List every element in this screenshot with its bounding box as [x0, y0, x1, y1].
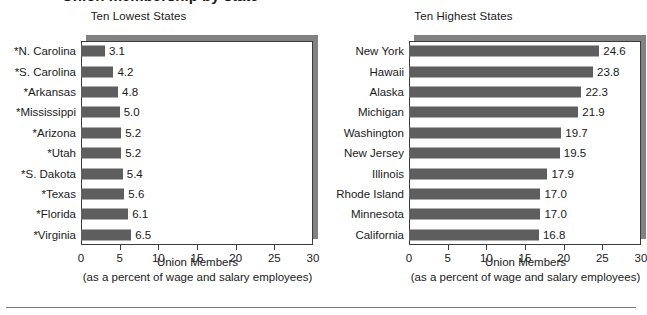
axis-tick [236, 245, 237, 250]
chart-panel-lowest: Ten Lowest States *N. Carolina3.1*S. Car… [0, 6, 321, 301]
bar-category-label: *Mississippi [8, 106, 81, 118]
bar-track: 19.5 [409, 143, 642, 163]
bar-track: 5.2 [81, 123, 314, 143]
bar-category-label: Alaska [336, 86, 409, 98]
bar-track: 5.0 [81, 102, 314, 122]
bar-row: Washington19.7 [336, 123, 642, 143]
bar-track: 4.2 [81, 61, 314, 81]
bar-category-label: *S. Carolina [8, 66, 81, 78]
bar-row: Hawaii23.8 [336, 61, 642, 81]
bar [409, 86, 581, 97]
bar-value-label: 4.8 [122, 86, 138, 98]
bar-value-label: 3.1 [109, 45, 125, 57]
bar-track: 4.8 [81, 82, 314, 102]
bar-value-label: 4.2 [117, 66, 133, 78]
bar-track: 24.6 [409, 41, 642, 61]
bar-track: 16.8 [409, 225, 642, 245]
bar-value-label: 17.0 [544, 208, 566, 220]
bar-row: *S. Dakota5.4 [8, 163, 314, 183]
bar-track: 17.9 [409, 163, 642, 183]
bar-row: *Texas5.6 [8, 184, 314, 204]
bar-value-label: 23.8 [597, 66, 619, 78]
bar-value-label: 6.1 [132, 208, 148, 220]
axis-tick [158, 245, 159, 250]
bar-row: *Arizona5.2 [8, 123, 314, 143]
bar [81, 107, 120, 118]
axis-tick [448, 245, 449, 250]
bar [409, 168, 547, 179]
bar [81, 188, 124, 199]
bar-track: 17.0 [409, 184, 642, 204]
x-axis-subtitle-lowest: (as a percent of wage and salary employe… [8, 271, 314, 283]
bar-category-label: Michigan [336, 106, 409, 118]
chart-title-lowest: Ten Lowest States [0, 10, 299, 22]
bar-value-label: 5.6 [128, 188, 144, 200]
bar-category-label: Hawaii [336, 66, 409, 78]
footer-divider [6, 307, 636, 308]
bar-track: 21.9 [409, 102, 642, 122]
bar [81, 168, 123, 179]
bar-track: 3.1 [81, 41, 314, 61]
bar-category-label: Washington [336, 127, 409, 139]
bar [409, 66, 593, 77]
bar-category-label: *Utah [8, 147, 81, 159]
bar-category-label: *S. Dakota [8, 168, 81, 180]
axis-tick [525, 245, 526, 250]
bar-value-label: 5.0 [124, 106, 140, 118]
bar [409, 148, 560, 159]
bar-track: 19.7 [409, 123, 642, 143]
bar [409, 209, 540, 220]
bar-value-label: 22.3 [585, 86, 607, 98]
bar [409, 229, 539, 240]
bar-rows-highest: New York24.6Hawaii23.8Alaska22.3Michigan… [336, 41, 642, 245]
x-axis-title-lowest: Union Members [8, 256, 314, 268]
bar-category-label: *Texas [8, 188, 81, 200]
bar-row: New Jersey19.5 [336, 143, 642, 163]
bar-row: New York24.6 [336, 41, 642, 61]
bar-value-label: 5.4 [127, 168, 143, 180]
bar-value-label: 16.8 [543, 229, 565, 241]
bar-value-label: 19.5 [564, 147, 586, 159]
bar-value-label: 19.7 [565, 127, 587, 139]
axis-tick [120, 245, 121, 250]
bar-row: *Arkansas4.8 [8, 82, 314, 102]
bar-row: Alaska22.3 [336, 82, 642, 102]
bar-value-label: 21.9 [582, 106, 604, 118]
axis-tick [197, 245, 198, 250]
bar-value-label: 17.9 [551, 168, 573, 180]
bar-category-label: *Florida [8, 208, 81, 220]
bar-value-label: 17.0 [544, 188, 566, 200]
bar-value-label: 5.2 [125, 147, 141, 159]
bar [409, 46, 599, 57]
bar-category-label: New Jersey [336, 147, 409, 159]
bar-category-label: Rhode Island [336, 188, 409, 200]
axis-tick [486, 245, 487, 250]
bar-row: *Florida6.1 [8, 204, 314, 224]
charts-container: Ten Lowest States *N. Carolina3.1*S. Car… [0, 6, 642, 301]
bar [81, 127, 121, 138]
bar-value-label: 5.2 [125, 127, 141, 139]
bar-category-label: California [336, 229, 409, 241]
bar-category-label: *Arizona [8, 127, 81, 139]
bar-row: Illinois17.9 [336, 163, 642, 183]
bar-row: Michigan21.9 [336, 102, 642, 122]
bar [81, 86, 118, 97]
bar-track: 17.0 [409, 204, 642, 224]
bar-row: Rhode Island17.0 [336, 184, 642, 204]
x-axis-subtitle-highest: (as a percent of wage and salary employe… [336, 271, 642, 283]
bar [409, 127, 561, 138]
bar-row: *Virginia6.5 [8, 225, 314, 245]
page-title: Union membership by state [62, 0, 259, 4]
bar-value-label: 24.6 [603, 45, 625, 57]
bar [81, 229, 131, 240]
bar-track: 5.4 [81, 163, 314, 183]
bar-track: 22.3 [409, 82, 642, 102]
bar-row: *S. Carolina4.2 [8, 61, 314, 81]
bar-value-label: 6.5 [135, 229, 151, 241]
bar [81, 66, 113, 77]
bar-row: *N. Carolina3.1 [8, 41, 314, 61]
bar-category-label: *Arkansas [8, 86, 81, 98]
bar-row: Minnesota17.0 [336, 204, 642, 224]
axis-tick [564, 245, 565, 250]
bar-category-label: Illinois [336, 168, 409, 180]
